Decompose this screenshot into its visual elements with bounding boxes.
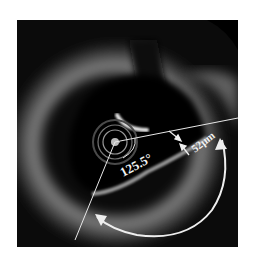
oct-image: 125.5° 52μm [17,20,238,247]
